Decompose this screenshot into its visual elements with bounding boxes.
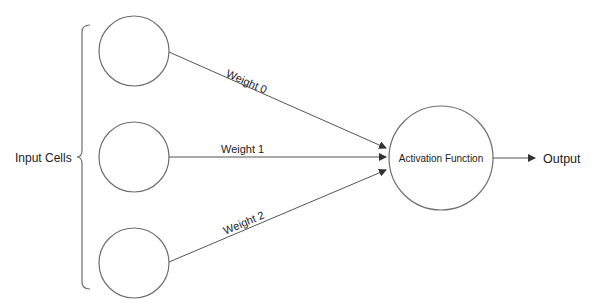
weight-arrow-2 (169, 170, 386, 262)
weight-label-2: Weight 2 (221, 209, 265, 237)
input-cell-2 (99, 228, 169, 298)
activation-function-label: Activation Function (399, 153, 484, 164)
weight-label-1: Weight 1 (221, 143, 264, 155)
input-group-brace (77, 25, 90, 289)
input-cell-1 (99, 122, 169, 192)
perceptron-diagram: Input Cells Weight 0 Weight 1 Weight 2 A… (0, 0, 597, 306)
input-cells-label: Input Cells (15, 151, 72, 165)
output-label: Output (543, 152, 581, 166)
weight-label-0: Weight 0 (225, 67, 269, 95)
input-cell-0 (99, 16, 169, 86)
weight-arrow-0 (169, 52, 386, 148)
